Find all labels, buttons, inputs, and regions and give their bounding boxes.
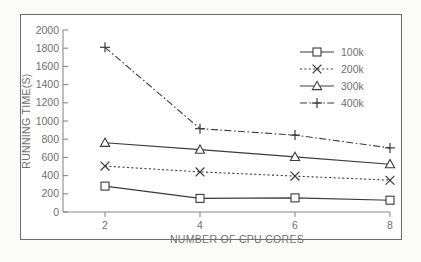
y-tick-label: 1400 bbox=[36, 78, 60, 90]
y-tick-label: 1200 bbox=[36, 96, 60, 108]
y-tick-label: 0 bbox=[53, 206, 59, 218]
chart-figure: 0 200 400 600 800 1000 1200 1400 1600 18… bbox=[0, 0, 421, 262]
legend-item-100k[interactable]: 100k bbox=[300, 46, 365, 58]
series-200k-marker bbox=[101, 162, 110, 171]
series-300k-marker bbox=[100, 138, 109, 146]
series-300k-line bbox=[105, 143, 390, 164]
series-400k-marker bbox=[385, 143, 395, 153]
x-tick-label: 4 bbox=[197, 219, 203, 231]
y-tick-label: 200 bbox=[41, 187, 59, 199]
legend-label: 100k bbox=[341, 46, 365, 58]
y-tick-label: 800 bbox=[41, 133, 59, 145]
y-tick-label: 1800 bbox=[36, 42, 60, 54]
series-100k-marker bbox=[291, 194, 299, 202]
x-axis-title: NUMBER OF CPU CORES bbox=[170, 233, 304, 245]
x-axis-ticks bbox=[105, 212, 390, 217]
series-100k-line bbox=[105, 186, 390, 200]
x-tick-label: 2 bbox=[102, 219, 108, 231]
legend-plus-icon bbox=[312, 98, 322, 108]
series-200k-line bbox=[105, 166, 390, 180]
x-tick-label: 6 bbox=[292, 219, 298, 231]
legend-label: 200k bbox=[341, 63, 365, 75]
legend-item-200k[interactable]: 200k bbox=[300, 63, 365, 75]
chart-canvas: 0 200 400 600 800 1000 1200 1400 1600 18… bbox=[0, 0, 421, 262]
y-axis-title: RUNNING TIME(S) bbox=[20, 73, 32, 168]
series-100k-marker bbox=[101, 182, 109, 190]
y-tick-label: 2000 bbox=[36, 24, 60, 36]
y-tick-label: 1600 bbox=[36, 60, 60, 72]
series-100k bbox=[101, 182, 394, 204]
chart-legend: 100k 200k 300k 400k bbox=[300, 46, 365, 109]
legend-label: 400k bbox=[341, 97, 365, 109]
y-axis-ticks bbox=[63, 30, 68, 212]
series-200k bbox=[101, 162, 395, 185]
legend-item-300k[interactable]: 300k bbox=[300, 80, 365, 92]
x-tick-labels: 2 4 6 8 bbox=[102, 219, 393, 231]
series-100k-marker bbox=[386, 196, 394, 204]
series-200k-marker bbox=[291, 172, 300, 181]
series-100k-marker bbox=[196, 194, 204, 202]
legend-item-400k[interactable]: 400k bbox=[300, 97, 365, 109]
series-400k-marker bbox=[195, 124, 205, 134]
y-tick-label: 1000 bbox=[36, 115, 60, 127]
x-tick-label: 8 bbox=[387, 219, 393, 231]
legend-label: 300k bbox=[341, 80, 365, 92]
y-tick-labels: 0 200 400 600 800 1000 1200 1400 1600 18… bbox=[36, 24, 60, 218]
y-tick-label: 400 bbox=[41, 169, 59, 181]
series-400k-marker bbox=[290, 130, 300, 140]
legend-square-icon bbox=[313, 48, 321, 56]
y-tick-label: 600 bbox=[41, 151, 59, 163]
